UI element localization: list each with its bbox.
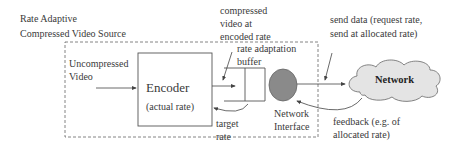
buffer-shape: [224, 68, 265, 101]
feedback-label-line1: feedback (e.g. of: [333, 115, 400, 128]
compressed-label-line1: compressed: [220, 4, 267, 17]
uncompressed-label-line2: Video: [69, 70, 93, 83]
network-label: Network: [375, 73, 414, 86]
feedback-label-line2: allocated rate): [333, 128, 390, 141]
encoder-sublabel: (actual rate): [146, 100, 194, 113]
encoder-label: Encoder: [146, 80, 189, 95]
network-interface-label-line2: Interface: [274, 120, 310, 133]
title-line1: Rate Adaptive: [20, 12, 77, 25]
network-interface-label-line1: Network: [274, 107, 309, 120]
send-data-label-line1: send data (request rate,: [330, 13, 422, 26]
target-rate-label-line2: rate: [216, 130, 231, 143]
buffer-label-line2: buffer: [237, 55, 261, 68]
network-interface-node: [269, 69, 297, 101]
target-rate-label-line1: target: [216, 117, 239, 130]
buffer-label-line1: rate adaptation: [237, 42, 296, 55]
send-data-label-line2: send at allocated rate): [330, 27, 417, 40]
uncompressed-label-line1: Uncompressed: [69, 57, 128, 70]
rate-adaptive-video-diagram: Rate Adaptive Compressed Video Source Un…: [0, 0, 459, 152]
title-line2: Compressed Video Source: [20, 27, 126, 40]
compressed-label-line2: video at: [220, 17, 252, 30]
